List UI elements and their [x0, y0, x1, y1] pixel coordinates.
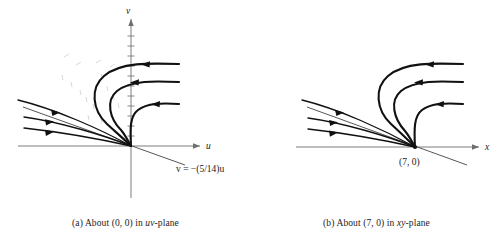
equilibrium-point-label: (7, 0)	[399, 157, 420, 168]
eigendirection-line-label: v = −(5/14)u	[176, 164, 224, 175]
x-axis-label: x	[484, 142, 490, 152]
plot-area-xy: x (7, 0)	[251, 0, 502, 215]
flow-arrow-outer	[141, 61, 150, 67]
flow-arrow-inner-b	[435, 101, 444, 107]
caption-a-suffix: -plane	[155, 218, 179, 228]
flow-arrow-incoming-upper	[51, 110, 60, 116]
u-axis	[18, 143, 200, 148]
v-axis-label: v	[126, 6, 131, 16]
panel-xy-plane: x (7, 0) (b) About (7, 0) in xy-plane	[251, 0, 502, 249]
panel-uv-plane: u v v = −(5/14)u (a) About (0, 0) in uv-…	[0, 0, 251, 249]
x-axis	[296, 144, 479, 149]
plot-area-uv: u v v = −(5/14)u	[0, 0, 251, 215]
caption-a-italic: uv	[145, 218, 154, 228]
caption-a-prefix: (a) About (0, 0) in	[72, 218, 145, 228]
equilibrium-point-dot	[413, 145, 417, 149]
u-axis-label: u	[206, 141, 211, 151]
caption-b-suffix: -plane	[406, 218, 430, 228]
phase-portrait-xy-svg: x (7, 0)	[251, 0, 502, 215]
flow-arrow-outer-b	[425, 61, 434, 67]
figure-phase-portraits: u v v = −(5/14)u (a) About (0, 0) in uv-…	[0, 0, 502, 249]
phase-portrait-uv-svg: u v v = −(5/14)u	[0, 0, 251, 215]
v-axis	[128, 19, 135, 198]
trajectory-inner	[131, 104, 179, 146]
caption-b-prefix: (b) About (7, 0) in	[323, 218, 397, 228]
flow-arrow-incoming-lower-b	[329, 131, 338, 137]
caption-panel-b: (b) About (7, 0) in xy-plane	[251, 218, 502, 228]
caption-panel-a: (a) About (0, 0) in uv-plane	[0, 218, 251, 228]
flow-arrow-incoming-upper-b	[335, 110, 344, 116]
flow-arrow-inner	[151, 101, 160, 107]
caption-b-italic: xy	[397, 218, 406, 228]
trajectory-inner-b	[415, 104, 463, 147]
